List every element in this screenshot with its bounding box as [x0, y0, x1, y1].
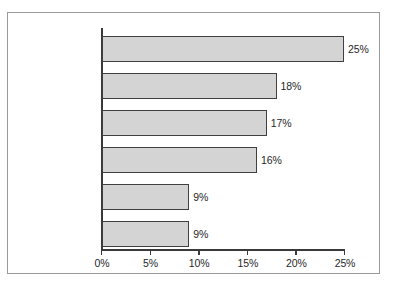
x-tick-mark-0 [101, 249, 102, 255]
figure-frame: 0% 5% 10% 15% 20% 25% Women returners 25… [7, 12, 380, 274]
bar[interactable] [102, 221, 189, 247]
value-axis-line [101, 249, 344, 251]
bar[interactable] [102, 147, 257, 173]
x-tick-mark-4 [295, 249, 296, 255]
bar-value-label: 18% [281, 80, 302, 92]
plot-area: 0% 5% 10% 15% 20% 25% Women returners 25… [8, 13, 381, 275]
x-tick-label-1: 5% [143, 257, 158, 269]
bar-value-label: 9% [193, 191, 208, 203]
x-tick-mark-1 [150, 249, 151, 255]
bar[interactable] [102, 184, 189, 210]
bar[interactable] [102, 36, 344, 62]
chart-figure: 0% 5% 10% 15% 20% 25% Women returners 25… [0, 0, 398, 286]
x-tick-label-5: 25% [335, 257, 356, 269]
bar-value-label: 25% [348, 43, 369, 55]
x-tick-label-4: 20% [286, 257, 307, 269]
x-tick-mark-2 [198, 249, 199, 255]
x-tick-label-0: 0% [95, 257, 110, 269]
bar-value-label: 9% [193, 228, 208, 240]
x-tick-label-3: 15% [237, 257, 258, 269]
x-tick-mark-3 [247, 249, 248, 255]
bar[interactable] [102, 110, 267, 136]
x-tick-mark-5 [344, 249, 345, 255]
bar[interactable] [102, 73, 277, 99]
bar-value-label: 17% [271, 117, 292, 129]
bar-value-label: 16% [261, 154, 282, 166]
x-tick-label-2: 10% [189, 257, 210, 269]
